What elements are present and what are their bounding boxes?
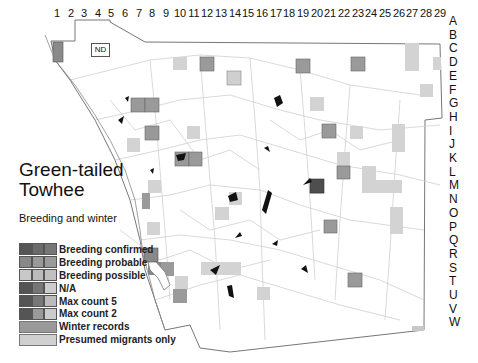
legend: Breeding confirmed Breeding probable Bre…	[19, 243, 176, 346]
col-label: 25	[379, 7, 391, 19]
row-label: O	[449, 206, 458, 220]
row-label: N	[449, 192, 458, 206]
col-label: 27	[406, 7, 418, 19]
col-label: 3	[81, 7, 87, 19]
legend-label: Winter records	[59, 321, 129, 332]
legend-swatch	[32, 269, 45, 281]
legend-label: Breeding possible	[59, 270, 146, 281]
row-label: W	[449, 315, 460, 329]
col-label: 13	[215, 7, 227, 19]
legend-swatch	[19, 308, 32, 320]
legend-swatch	[19, 334, 57, 346]
col-label: 9	[163, 7, 169, 19]
col-label: 6	[122, 7, 128, 19]
row-label: F	[449, 83, 456, 97]
col-label: 24	[365, 7, 377, 19]
col-label: 5	[108, 7, 114, 19]
col-label: 14	[229, 7, 241, 19]
col-label: 28	[420, 7, 432, 19]
legend-swatch	[32, 256, 45, 268]
col-label: 8	[149, 7, 155, 19]
row-label: I	[449, 124, 452, 138]
legend-swatch	[19, 295, 32, 307]
col-label: 16	[256, 7, 268, 19]
legend-swatch	[32, 282, 45, 294]
row-label: K	[449, 151, 457, 165]
row-label: P	[449, 220, 457, 234]
row-label: S	[449, 261, 457, 275]
col-label: 10	[174, 7, 186, 19]
row-label: J	[449, 137, 455, 151]
row-label: E	[449, 69, 457, 83]
col-label: 26	[393, 7, 405, 19]
row-label: L	[449, 165, 456, 179]
col-label: 19	[297, 7, 309, 19]
legend-swatch	[19, 269, 32, 281]
row-label: U	[449, 288, 458, 302]
col-label: 1	[54, 7, 60, 19]
legend-swatch	[19, 256, 32, 268]
legend-item-presumed-migrants: Presumed migrants only	[19, 333, 176, 346]
no-data-marker: ND	[91, 43, 110, 57]
legend-label: N/A	[59, 283, 76, 294]
col-label: 15	[242, 7, 254, 19]
legend-label: Breeding probable	[59, 257, 147, 268]
legend-item-max-count-2: Max count 2	[19, 307, 176, 320]
title-line-1: Green-tailed	[19, 160, 124, 180]
map-subtitle: Breeding and winter	[19, 212, 117, 224]
legend-swatch	[32, 295, 45, 307]
title-line-2: Towhee	[19, 180, 124, 200]
legend-label: Max count 5	[59, 296, 117, 307]
row-label: G	[449, 96, 458, 110]
col-label: 11	[188, 7, 199, 19]
legend-swatch	[44, 308, 57, 320]
row-label: R	[449, 247, 458, 261]
row-label: H	[449, 110, 458, 124]
legend-label: Breeding confirmed	[59, 244, 153, 255]
legend-label: Presumed migrants only	[59, 334, 176, 345]
legend-swatch	[32, 308, 45, 320]
row-label: A	[449, 14, 457, 28]
legend-swatch	[19, 243, 32, 255]
legend-item-breeding-possible: Breeding possible	[19, 269, 176, 282]
col-label: 21	[324, 7, 336, 19]
legend-swatch	[44, 256, 57, 268]
row-label: T	[449, 274, 456, 288]
col-label: 22	[338, 7, 350, 19]
col-label: 17	[270, 7, 282, 19]
row-label: D	[449, 55, 458, 69]
legend-item-na: N/A	[19, 282, 176, 295]
legend-item-winter-records: Winter records	[19, 320, 176, 333]
legend-swatch	[44, 269, 57, 281]
row-label: C	[449, 41, 458, 55]
legend-swatch	[44, 243, 57, 255]
col-label: 7	[136, 7, 142, 19]
legend-swatch	[44, 282, 57, 294]
species-title: Green-tailed Towhee	[19, 160, 124, 200]
col-label: 2	[68, 7, 74, 19]
legend-label: Max count 2	[59, 308, 117, 319]
row-label: B	[449, 28, 457, 42]
col-label: 4	[95, 7, 101, 19]
legend-item-max-count-5: Max count 5	[19, 295, 176, 308]
col-label: 18	[283, 7, 295, 19]
column-labels: 1 2 3 4 5 6 7 8 9 10 11 12 13 14 15 16 1…	[0, 7, 478, 21]
legend-swatch	[44, 295, 57, 307]
col-label: 29	[434, 7, 446, 19]
legend-item-breeding-probable: Breeding probable	[19, 256, 176, 269]
legend-swatch	[19, 321, 57, 333]
row-label: V	[449, 302, 457, 316]
legend-item-breeding-confirmed: Breeding confirmed	[19, 243, 176, 256]
row-label: Q	[449, 233, 458, 247]
legend-swatch	[19, 282, 32, 294]
col-label: 23	[352, 7, 364, 19]
col-label: 20	[311, 7, 323, 19]
legend-swatch	[32, 243, 45, 255]
row-label: M	[449, 178, 459, 192]
col-label: 12	[201, 7, 213, 19]
